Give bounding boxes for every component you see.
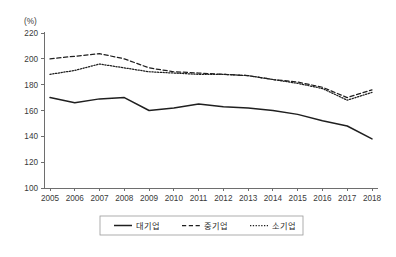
y-axis: 100120140160180200220 (%) xyxy=(24,17,44,193)
x-tick-label: 2010 xyxy=(165,194,184,203)
y-tick-label: 120 xyxy=(24,158,38,167)
x-tick-group: 2005200620072008200920102011201220132014… xyxy=(41,188,382,203)
series-line-dashed xyxy=(50,54,372,98)
y-tick-label: 100 xyxy=(24,184,38,193)
series-line-dotted xyxy=(50,64,372,100)
chart-canvas: 100120140160180200220 (%) 20052006200720… xyxy=(0,0,396,257)
x-tick-label: 2012 xyxy=(214,194,233,203)
y-tick-group: 100120140160180200220 xyxy=(24,29,44,193)
x-tick-label: 2016 xyxy=(313,194,332,203)
chart-legend: 대기업중기업소기업 xyxy=(100,216,303,235)
x-tick-label: 2008 xyxy=(115,194,134,203)
x-tick-label: 2018 xyxy=(363,194,382,203)
x-tick-label: 2005 xyxy=(41,194,60,203)
series-line-solid xyxy=(50,98,372,139)
line-chart: 100120140160180200220 (%) 20052006200720… xyxy=(0,0,396,257)
legend-label: 중기업 xyxy=(204,222,228,231)
x-tick-label: 2009 xyxy=(140,194,159,203)
y-axis-unit-label: (%) xyxy=(24,17,37,26)
x-tick-label: 2007 xyxy=(90,194,109,203)
x-tick-label: 2006 xyxy=(66,194,85,203)
legend-label: 대기업 xyxy=(136,222,160,231)
series-group xyxy=(50,54,372,139)
x-tick-label: 2017 xyxy=(338,194,357,203)
x-tick-label: 2011 xyxy=(190,194,208,203)
y-tick-label: 200 xyxy=(24,55,38,64)
y-tick-label: 140 xyxy=(24,132,38,141)
y-tick-label: 160 xyxy=(24,107,38,116)
x-tick-label: 2015 xyxy=(289,194,308,203)
legend-label: 소기업 xyxy=(272,222,296,231)
x-tick-label: 2014 xyxy=(264,194,283,203)
x-axis: 2005200620072008200920102011201220132014… xyxy=(41,188,382,203)
y-tick-label: 220 xyxy=(24,29,38,38)
x-tick-label: 2013 xyxy=(239,194,258,203)
y-tick-label: 180 xyxy=(24,81,38,90)
